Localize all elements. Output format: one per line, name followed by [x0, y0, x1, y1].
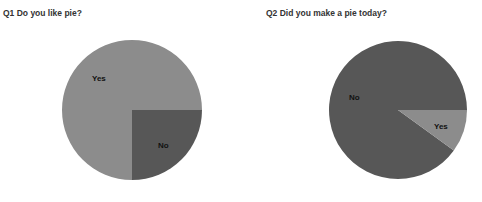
q1-pie-chart: Yes No — [62, 40, 202, 180]
q1-label-yes: Yes — [92, 74, 106, 83]
q2-label-yes: Yes — [434, 122, 448, 131]
q1-label-no: No — [158, 141, 169, 150]
charts-canvas: Yes No No Yes — [0, 0, 482, 202]
q2-label-no: No — [349, 93, 360, 102]
q2-pie-chart: No Yes — [329, 41, 467, 179]
